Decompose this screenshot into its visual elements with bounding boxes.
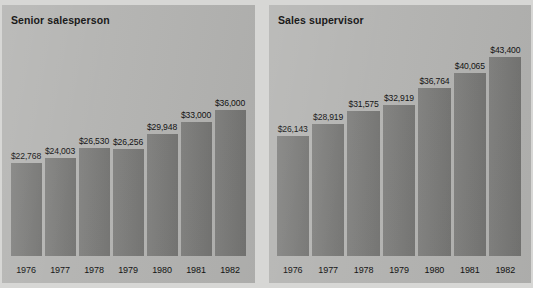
x-axis-tick-label: 1980 <box>425 265 445 275</box>
bar-value-label: $26,143 <box>278 124 308 134</box>
bar-value-label: $29,948 <box>147 122 177 132</box>
bar <box>489 57 521 256</box>
bar <box>277 136 309 256</box>
x-axis-tick-label: 1978 <box>354 265 374 275</box>
chart-title: Senior salesperson <box>11 14 110 26</box>
bar-group: $28,919 <box>312 5 344 256</box>
bar-group: $24,003 <box>45 5 76 256</box>
bar-value-label: $36,000 <box>215 98 245 108</box>
x-axis-tick-label: 1977 <box>50 265 70 275</box>
bar-value-label: $36,764 <box>419 76 449 86</box>
plot-area: $22,7681976$24,0031977$26,5301978$26,256… <box>2 5 255 283</box>
chart-title: Sales supervisor <box>278 14 364 26</box>
bar-group: $33,000 <box>181 5 212 256</box>
x-axis-tick-label: 1982 <box>220 265 240 275</box>
bar-value-label: $28,919 <box>313 112 343 122</box>
chart-figure: Senior salesperson $22,7681976$24,003197… <box>0 0 533 288</box>
bar-group: $26,143 <box>277 5 309 256</box>
plot-area: $26,1431976$28,9191977$31,5751978$32,919… <box>269 5 531 283</box>
bar <box>79 148 110 256</box>
x-axis-tick-label: 1980 <box>152 265 172 275</box>
bar <box>181 122 212 256</box>
bar-group: $22,768 <box>11 5 42 256</box>
x-axis-tick-label: 1979 <box>389 265 409 275</box>
bar-group: $43,400 <box>489 5 521 256</box>
bar-group: $36,000 <box>215 5 246 256</box>
bar-value-label: $43,400 <box>490 45 520 55</box>
chart-panel-sales-supervisor: Sales supervisor $26,1431976$28,9191977$… <box>269 5 531 283</box>
bar-value-label: $32,919 <box>384 93 414 103</box>
x-axis-tick-label: 1976 <box>283 265 303 275</box>
bar <box>11 163 42 256</box>
bar-value-label: $33,000 <box>181 110 211 120</box>
bar-group: $40,065 <box>454 5 486 256</box>
bar <box>215 110 246 256</box>
bar-value-label: $31,575 <box>349 99 379 109</box>
bar-value-label: $26,530 <box>79 136 109 146</box>
bar-value-label: $26,256 <box>113 137 143 147</box>
bar-value-label: $40,065 <box>455 61 485 71</box>
bar-value-label: $22,768 <box>11 151 41 161</box>
bar <box>147 134 178 256</box>
bar-value-label: $24,003 <box>45 146 75 156</box>
bar <box>383 105 415 256</box>
x-axis-tick-label: 1979 <box>118 265 138 275</box>
chart-panel-senior-salesperson: Senior salesperson $22,7681976$24,003197… <box>2 5 255 283</box>
bar-group: $31,575 <box>347 5 379 256</box>
bar-group: $26,256 <box>113 5 144 256</box>
x-axis-tick-label: 1978 <box>84 265 104 275</box>
bar <box>45 158 76 256</box>
bar <box>347 111 379 256</box>
bar-group: $36,764 <box>418 5 450 256</box>
x-axis-tick-label: 1976 <box>16 265 36 275</box>
bar <box>418 88 450 256</box>
x-axis-tick-label: 1977 <box>318 265 338 275</box>
bar <box>312 124 344 256</box>
bar-group: $26,530 <box>79 5 110 256</box>
x-axis-tick-label: 1981 <box>186 265 206 275</box>
bar-group: $29,948 <box>147 5 178 256</box>
x-axis-tick-label: 1981 <box>460 265 480 275</box>
bar <box>113 149 144 256</box>
bar <box>454 73 486 256</box>
x-axis-tick-label: 1982 <box>495 265 515 275</box>
bar-group: $32,919 <box>383 5 415 256</box>
